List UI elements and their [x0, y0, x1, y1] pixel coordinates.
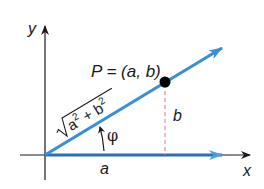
diagram-canvas: y x P = (a, b) a b φ a2+b2 [0, 0, 264, 189]
y-axis-label: y [27, 20, 37, 37]
vertical-component-label: b [173, 107, 182, 124]
angle-phi-label: φ [107, 126, 118, 145]
point-p-label: P = (a, b) [91, 62, 161, 81]
angle-arc-arrow [100, 127, 104, 151]
x-axis-label: x [242, 162, 252, 179]
horizontal-component-label: a [100, 160, 109, 177]
point-p [160, 77, 171, 88]
